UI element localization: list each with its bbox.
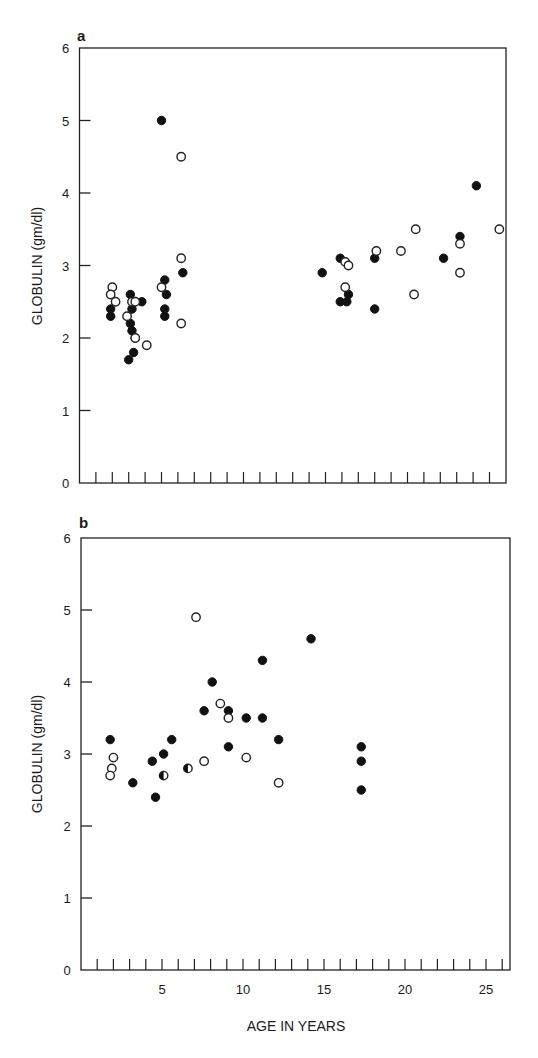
data-point-open [274, 779, 282, 787]
panel-a: 0123456 [62, 41, 506, 491]
data-point-open [242, 753, 250, 761]
y-tick-label: 2 [63, 819, 70, 834]
data-point-filled [151, 793, 159, 801]
y-tick-label: 3 [63, 747, 70, 762]
y-tick-label: 4 [63, 675, 70, 690]
y-tick-label: 2 [62, 331, 69, 346]
data-point-open [123, 312, 131, 320]
data-point-open [143, 341, 151, 349]
y-tick-label: 1 [62, 404, 69, 419]
y-axis-label-a: GLOBULIN (gm/dl) [29, 207, 45, 325]
x-axis-label: AGE IN YEARS [247, 1018, 346, 1034]
data-point-open [157, 283, 165, 291]
data-point-filled [371, 305, 379, 313]
y-tick-label: 4 [62, 186, 69, 201]
data-point-filled [129, 348, 137, 356]
data-point-filled [179, 269, 187, 277]
y-tick-label: 0 [63, 963, 70, 978]
data-point-open [131, 334, 139, 342]
data-point-open [109, 753, 117, 761]
y-tick-label: 5 [63, 603, 70, 618]
x-tick-label: 20 [398, 982, 412, 997]
data-point-filled [357, 786, 365, 794]
data-point-filled [258, 714, 266, 722]
data-point-open [495, 225, 503, 233]
data-point-open [456, 240, 464, 248]
plot-frame [80, 48, 507, 483]
data-point-filled [224, 743, 232, 751]
data-point-filled [106, 312, 114, 320]
x-tick-label: 25 [479, 982, 493, 997]
data-point-filled [125, 356, 133, 364]
data-point-open [397, 247, 405, 255]
y-tick-label: 6 [63, 531, 70, 546]
data-point-filled [242, 714, 250, 722]
data-point-filled [208, 678, 216, 686]
data-point-open [372, 247, 380, 255]
data-point-open [224, 714, 232, 722]
data-point-filled [439, 254, 447, 262]
x-tick-label: 10 [236, 982, 250, 997]
data-point-filled [106, 735, 114, 743]
y-axis-label-b: GLOBULIN (gm/dl) [29, 695, 45, 813]
data-point-open [177, 319, 185, 327]
panel-b-label: b [79, 514, 88, 531]
data-point-filled [200, 707, 208, 715]
data-point-open [177, 254, 185, 262]
data-point-open [131, 298, 139, 306]
data-point-filled [343, 298, 351, 306]
panel-a-label: a [77, 27, 86, 44]
y-tick-label: 1 [63, 891, 70, 906]
y-tick-label: 6 [62, 41, 69, 56]
data-point-filled [168, 735, 176, 743]
data-point-filled [307, 635, 315, 643]
y-tick-label: 0 [62, 476, 69, 491]
data-point-open [200, 757, 208, 765]
data-point-filled [357, 743, 365, 751]
y-tick-label: 3 [62, 259, 69, 274]
data-point-open [216, 699, 224, 707]
chart-figure: 0123456 0123456510152025 GLOBULIN (gm/dl… [0, 0, 538, 1058]
x-tick-label: 5 [158, 982, 165, 997]
data-point-open [456, 269, 464, 277]
data-point-open [412, 225, 420, 233]
data-point-filled [161, 312, 169, 320]
x-tick-label: 15 [317, 982, 331, 997]
data-point-open [106, 771, 114, 779]
data-point-open [341, 283, 349, 291]
data-point-filled [472, 182, 480, 190]
data-point-open [410, 290, 418, 298]
data-point-open [344, 261, 352, 269]
plot-frame [81, 538, 510, 970]
data-point-open [177, 153, 185, 161]
data-point-filled [159, 750, 167, 758]
data-point-filled [274, 735, 282, 743]
data-point-filled [157, 116, 165, 124]
data-point-filled [318, 269, 326, 277]
y-tick-label: 5 [62, 114, 69, 129]
data-point-filled [148, 757, 156, 765]
data-point-open [111, 298, 119, 306]
panel-b: 0123456510152025 [63, 531, 510, 997]
data-point-filled [357, 757, 365, 765]
data-point-filled [129, 779, 137, 787]
data-point-filled [258, 656, 266, 664]
data-point-open [192, 613, 200, 621]
